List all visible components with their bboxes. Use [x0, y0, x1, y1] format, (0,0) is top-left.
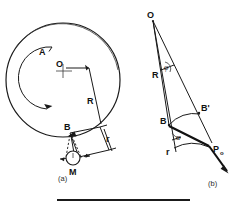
caption-panel-a: (a): [58, 174, 68, 183]
label-radius-R-b: R: [152, 70, 159, 80]
label-radius-r-b: r: [166, 147, 170, 157]
roller-radius-dimension-tick-bottom: [109, 148, 116, 150]
force-vector-P0-arrow-head: [221, 165, 229, 173]
rotation-arrow-head: [44, 104, 52, 109]
caption-panel-b: (b): [208, 179, 218, 188]
roller-dimension-arrow-left: [60, 157, 65, 161]
label-point-B-b: B: [160, 116, 167, 126]
rotation-arc-tick: [49, 47, 52, 52]
label-angle-phi: φ: [164, 63, 169, 72]
label-wheel-radius-R: R: [87, 96, 94, 106]
label-point-B-prime: B': [201, 103, 210, 113]
technical-diagram-svg: O R A B M r (a): [0, 0, 245, 214]
radius-R-leader-line: [66, 68, 101, 124]
label-force-subscript: o: [220, 150, 224, 156]
panel-b-group: O R φ B B' α r P o (b): [147, 10, 229, 188]
label-roller-radius-r: r: [106, 134, 110, 144]
arc-B-to-B-prime: [169, 113, 200, 125]
roller-radius-dimension-tick-top: [100, 125, 107, 127]
label-apex-O: O: [147, 10, 154, 20]
panel-a-group: O R A B M r (a): [6, 23, 120, 183]
figure-container: O R A B M r (a): [0, 0, 245, 214]
label-rotation-arc-A: A: [39, 47, 46, 57]
footer-horizontal-rule: [57, 199, 190, 201]
wheel-outer-circle: [6, 23, 120, 137]
wheel-outer-circle-secondary: [16, 24, 118, 70]
label-roller-center-M: M: [69, 167, 77, 177]
label-contact-point-B: B: [64, 122, 71, 132]
label-force-P: P: [213, 144, 219, 154]
label-wheel-center-O: O: [56, 59, 63, 69]
rotation-direction-arc: [18, 47, 52, 109]
